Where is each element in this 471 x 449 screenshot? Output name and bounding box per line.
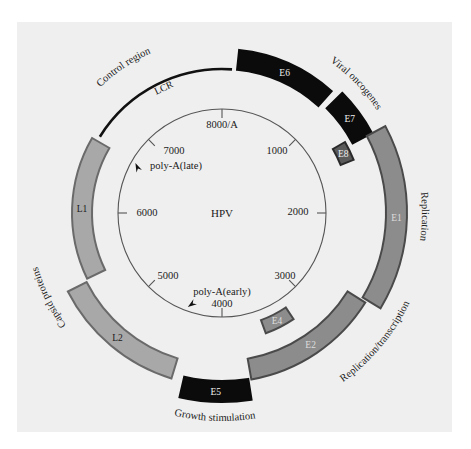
gene-label: E1 [391, 213, 402, 223]
gene-label: L2 [112, 333, 123, 343]
tick-label: 6000 [137, 207, 158, 218]
gene-label: E5 [210, 387, 221, 397]
tick-label: 4000 [212, 298, 233, 309]
tick-label: 1000 [267, 145, 288, 156]
poly-a-early-label: poly-A(early) [193, 286, 251, 298]
tick-label: 5000 [158, 270, 179, 281]
gene-label: E6 [279, 68, 290, 78]
gene-label: E2 [305, 340, 316, 350]
gene-label: E4 [272, 316, 283, 326]
poly-a-late-label: poly-A(late) [150, 160, 202, 172]
group-label: Replication [418, 192, 431, 243]
gene-e5: E5 [179, 377, 251, 402]
gene-label: E8 [338, 149, 349, 159]
tick-label: 3000 [275, 270, 296, 281]
hpv-genome-diagram: 8000/A1000200030004000500060007000poly-A… [0, 0, 471, 449]
gene-label: E7 [345, 114, 356, 124]
gene-label: L1 [77, 204, 88, 214]
tick-label: 8000/A [206, 119, 238, 130]
tick-label: 2000 [288, 206, 309, 217]
tick-label: 7000 [164, 145, 185, 156]
genome-title: HPV [211, 207, 233, 219]
